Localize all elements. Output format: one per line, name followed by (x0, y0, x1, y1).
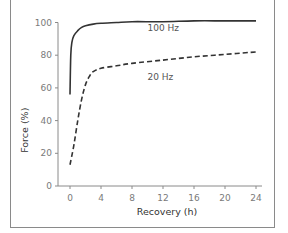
series-label: 20 Hz (148, 72, 174, 82)
series-20-hz-line (70, 52, 256, 165)
line-chart: 02040608010004812162024Recovery (h)Force… (0, 0, 288, 233)
y-tick-label: 100 (35, 18, 52, 28)
y-tick-label: 80 (41, 50, 53, 60)
y-tick-label: 20 (41, 148, 53, 158)
x-tick-label: 8 (129, 193, 135, 203)
x-tick-label: 16 (188, 193, 200, 203)
x-tick-label: 4 (98, 193, 104, 203)
labels-group: 100 Hz20 Hz (148, 23, 180, 82)
x-axis-title: Recovery (h) (137, 206, 198, 217)
x-tick-label: 20 (219, 193, 231, 203)
axes: 02040608010004812162024Recovery (h)Force… (19, 18, 262, 218)
y-tick-label: 60 (41, 83, 53, 93)
series-group (70, 21, 256, 165)
y-axis-title: Force (%) (19, 108, 30, 153)
y-tick-label: 0 (46, 181, 52, 191)
x-tick-label: 24 (250, 193, 262, 203)
x-tick-label: 12 (157, 193, 168, 203)
y-tick-label: 40 (41, 116, 53, 126)
series-label: 100 Hz (148, 23, 180, 33)
x-tick-label: 0 (67, 193, 73, 203)
